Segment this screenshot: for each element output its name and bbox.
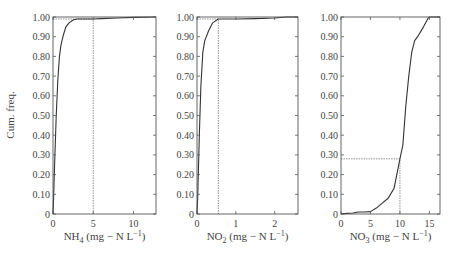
x-tick-label: 5 <box>368 218 373 229</box>
y-tick-label: 0.10 <box>321 189 339 200</box>
x-tick-label: 10 <box>128 218 138 229</box>
y-tick-label: 0.60 <box>33 90 51 101</box>
y-tick-label: 0.90 <box>33 31 51 42</box>
y-tick-label: 0.80 <box>33 51 51 62</box>
y-tick-label: 0.90 <box>321 31 339 42</box>
cumulative-frequency-curve <box>197 17 298 214</box>
y-tick-label: 0.20 <box>321 169 339 180</box>
y-tick-label: 0.40 <box>321 130 339 141</box>
y-tick-label: 0.70 <box>33 71 51 82</box>
y-tick-label: 0 <box>45 209 50 220</box>
cumulative-frequency-curve <box>341 17 440 214</box>
plot-frame <box>197 17 298 214</box>
y-tick-label: 1.00 <box>33 12 51 23</box>
y-tick-label: 0.30 <box>321 149 339 160</box>
y-tick-label: 0.20 <box>177 169 195 180</box>
y-tick-label: 0.30 <box>33 149 51 160</box>
y-tick-label: 0.70 <box>177 71 195 82</box>
y-tick-label: 0.10 <box>33 189 51 200</box>
y-axis-label: Cum. freq. <box>4 91 16 139</box>
y-tick-label: 0.20 <box>33 169 51 180</box>
y-tick-label: 0.50 <box>177 110 195 121</box>
y-tick-label: 0.50 <box>321 110 339 121</box>
y-tick-label: 0.90 <box>177 31 195 42</box>
x-axis-label: NH4 (mg − N L−1) <box>64 229 146 245</box>
y-tick-label: 0.60 <box>177 90 195 101</box>
x-tick-label: 0 <box>51 218 56 229</box>
x-axis-label: NO3 (mg − N L−1) <box>350 229 432 245</box>
panels-group: 00.100.200.300.400.500.600.700.800.901.0… <box>33 12 441 246</box>
y-tick-label: 1.00 <box>177 12 195 23</box>
y-tick-label: 0.70 <box>321 71 339 82</box>
x-tick-label: 5 <box>91 218 96 229</box>
chart-panel-2: 00.100.200.300.400.500.600.700.800.901.0… <box>177 12 299 246</box>
y-tick-label: 0 <box>333 209 338 220</box>
x-tick-label: 0 <box>339 218 344 229</box>
plot-frame <box>53 17 156 214</box>
plot-frame <box>341 17 440 214</box>
chart-panel-1: 00.100.200.300.400.500.600.700.800.901.0… <box>33 12 157 246</box>
y-tick-label: 0 <box>189 209 194 220</box>
y-tick-label: 1.00 <box>321 12 339 23</box>
y-tick-label: 0.80 <box>177 51 195 62</box>
x-tick-label: 15 <box>424 218 434 229</box>
y-tick-label: 0.40 <box>177 130 195 141</box>
chart-panel-3: 00.100.200.300.400.500.600.700.800.901.0… <box>321 12 441 246</box>
x-tick-label: 2 <box>272 218 277 229</box>
x-axis-label: NO2 (mg − N L−1) <box>207 229 289 245</box>
y-tick-label: 0.50 <box>33 110 51 121</box>
y-tick-label: 0.80 <box>321 51 339 62</box>
x-tick-label: 1 <box>233 218 238 229</box>
y-tick-label: 0.10 <box>177 189 195 200</box>
cumulative-frequency-figure: Cum. freq. 00.100.200.300.400.500.600.70… <box>0 0 460 255</box>
x-tick-label: 10 <box>395 218 405 229</box>
x-tick-label: 0 <box>195 218 200 229</box>
y-tick-label: 0.60 <box>321 90 339 101</box>
y-tick-label: 0.40 <box>33 130 51 141</box>
y-tick-label: 0.30 <box>177 149 195 160</box>
cumulative-frequency-curve <box>53 17 156 214</box>
